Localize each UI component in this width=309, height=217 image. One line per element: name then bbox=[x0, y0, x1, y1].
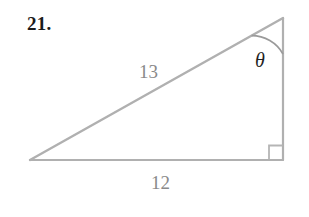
triangle-hypotenuse-line bbox=[30, 18, 283, 160]
right-angle-marker-icon bbox=[269, 146, 283, 160]
angle-label-theta: θ bbox=[255, 50, 265, 70]
problem-number: 21. bbox=[27, 14, 51, 33]
side-label-base: 12 bbox=[151, 173, 170, 192]
figure-canvas: 21. 13 12 θ bbox=[0, 0, 309, 217]
side-label-hypotenuse: 13 bbox=[139, 62, 158, 81]
